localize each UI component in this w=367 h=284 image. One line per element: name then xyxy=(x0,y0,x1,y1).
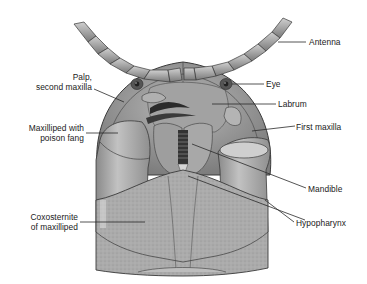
eye-right xyxy=(220,79,232,90)
label-mandible: Mandible xyxy=(308,184,342,194)
label-palp-line1: Palp, xyxy=(28,72,92,82)
label-coxosternite-line1: Coxosternite xyxy=(10,212,78,222)
label-maxilliped-line2: poison fang xyxy=(8,133,84,143)
label-maxilliped: Maxilliped with poison fang xyxy=(8,123,84,143)
label-palp-line2: second maxilla xyxy=(28,82,92,92)
label-maxilliped-line1: Maxilliped with xyxy=(8,123,84,133)
eye-left xyxy=(131,79,143,90)
label-palp: Palp, second maxilla xyxy=(28,72,92,92)
label-coxosternite-line2: of maxilliped xyxy=(10,222,78,232)
label-labrum: Labrum xyxy=(278,99,307,109)
label-coxosternite: Coxosternite of maxilliped xyxy=(10,212,78,232)
leader-hypopharynx xyxy=(265,200,294,222)
anatomy-figure: Antenna Eye Palp, second maxilla Labrum … xyxy=(0,0,367,284)
label-antenna: Antenna xyxy=(309,37,341,47)
label-eye: Eye xyxy=(266,79,281,89)
label-hypopharynx: Hypopharynx xyxy=(296,218,346,228)
antenna-right xyxy=(184,18,292,80)
label-first-maxilla: First maxilla xyxy=(296,122,341,132)
